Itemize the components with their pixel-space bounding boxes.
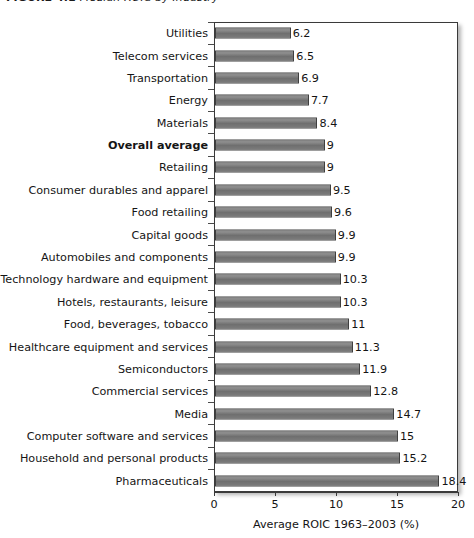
x-axis-tick-label: 5 <box>271 498 278 511</box>
y-axis-tick <box>208 223 214 224</box>
category-label: Consumer durables and apparel <box>28 183 208 196</box>
bar-row: Telecom services6.5 <box>0 44 474 66</box>
bar-value-label: 18.4 <box>441 474 466 487</box>
bar <box>215 117 317 128</box>
category-label: Media <box>174 407 208 420</box>
category-label: Computer software and services <box>27 430 208 443</box>
y-axis-tick <box>208 268 214 269</box>
category-label: Food retailing <box>132 206 208 219</box>
bar-value-label: 15 <box>400 430 414 443</box>
category-label: Capital goods <box>131 228 208 241</box>
bar-row: Food, beverages, tobacco11 <box>0 313 474 335</box>
x-axis-tick <box>275 492 276 496</box>
bar <box>215 72 299 83</box>
category-label: Healthcare equipment and services <box>9 340 208 353</box>
x-axis-tick <box>336 492 337 496</box>
bar-value-label: 9 <box>327 161 334 174</box>
bar-row: Food retailing9.6 <box>0 201 474 223</box>
category-label: Food, beverages, tobacco <box>64 318 208 331</box>
y-axis-tick <box>208 402 214 403</box>
x-axis-tick-label: 10 <box>329 498 343 511</box>
bar <box>215 453 400 464</box>
category-label: Retailing <box>159 161 208 174</box>
bar <box>215 95 309 106</box>
y-axis-tick <box>208 178 214 179</box>
category-label: Energy <box>169 94 208 107</box>
category-label: Utilities <box>166 27 208 40</box>
y-axis-tick <box>208 133 214 134</box>
y-axis-tick <box>208 44 214 45</box>
bar <box>215 363 360 374</box>
bar <box>215 50 294 61</box>
bar <box>215 28 291 39</box>
bar <box>215 341 353 352</box>
category-label: Hotels, restaurants, leisure <box>57 295 208 308</box>
bar-value-label: 9.9 <box>338 250 356 263</box>
roic-by-industry-bar-chart: Utilities6.2Telecom services6.5Transport… <box>0 0 474 538</box>
y-axis-tick <box>208 424 214 425</box>
x-axis-title: Average ROIC 1963–2003 (%) <box>214 518 458 531</box>
bar <box>215 319 349 330</box>
bar-value-label: 6.9 <box>301 71 319 84</box>
category-label: Automobiles and components <box>41 250 208 263</box>
bar-value-label: 8.4 <box>319 116 337 129</box>
bar <box>215 140 325 151</box>
category-label: Transportation <box>127 71 208 84</box>
bar-value-label: 9 <box>327 139 334 152</box>
x-axis-tick <box>397 492 398 496</box>
category-label: Household and personal products <box>20 452 208 465</box>
bar-value-label: 11 <box>351 318 365 331</box>
bar-value-label: 7.7 <box>311 94 329 107</box>
y-axis-tick <box>208 111 214 112</box>
bar-row: Overall average9 <box>0 134 474 156</box>
bar-value-label: 11.9 <box>362 362 387 375</box>
bar-row: Materials8.4 <box>0 112 474 134</box>
bar-value-label: 10.3 <box>343 295 368 308</box>
bar-row: Consumer durables and apparel9.5 <box>0 179 474 201</box>
bar-row: Media14.7 <box>0 402 474 424</box>
x-axis-tick <box>214 492 215 496</box>
x-axis-tick <box>458 492 459 496</box>
bar-row: Pharmaceuticals18.4 <box>0 470 474 492</box>
bar-row: Transportation6.9 <box>0 67 474 89</box>
bar <box>215 229 336 240</box>
category-label: Telecom services <box>113 49 208 62</box>
bar-row: Automobiles and components9.9 <box>0 246 474 268</box>
bar-row: Retailing9 <box>0 156 474 178</box>
x-axis-tick-label: 20 <box>451 498 465 511</box>
bar-row: Technology hardware and equipment10.3 <box>0 268 474 290</box>
bar <box>215 274 341 285</box>
bar-value-label: 6.2 <box>293 27 311 40</box>
bar-value-label: 11.3 <box>355 340 380 353</box>
y-axis-tick <box>208 335 214 336</box>
x-axis-tick-label: 0 <box>210 498 217 511</box>
bar <box>215 251 336 262</box>
bar-value-label: 9.6 <box>334 206 352 219</box>
category-label: Materials <box>157 116 208 129</box>
bar-row: Household and personal products15.2 <box>0 447 474 469</box>
y-axis-tick <box>208 156 214 157</box>
bar-row: Semiconductors11.9 <box>0 358 474 380</box>
y-axis-tick <box>208 357 214 358</box>
y-axis-tick <box>208 245 214 246</box>
bar <box>215 184 331 195</box>
bar-row: Capital goods9.9 <box>0 223 474 245</box>
bar-row: Computer software and services15 <box>0 425 474 447</box>
y-axis-tick <box>208 22 214 23</box>
y-axis-tick <box>208 447 214 448</box>
bar-value-label: 10.3 <box>343 273 368 286</box>
bar <box>215 431 398 442</box>
bar-row: Energy7.7 <box>0 89 474 111</box>
y-axis-tick <box>208 290 214 291</box>
y-axis-tick <box>208 66 214 67</box>
y-axis-tick <box>208 380 214 381</box>
category-label: Semiconductors <box>118 362 208 375</box>
bar-value-label: 15.2 <box>402 452 427 465</box>
bar-value-label: 14.7 <box>396 407 421 420</box>
bar-row: Healthcare equipment and services11.3 <box>0 335 474 357</box>
bar <box>215 408 394 419</box>
category-label: Pharmaceuticals <box>116 474 208 487</box>
category-label: Commercial services <box>92 385 208 398</box>
bar <box>215 207 332 218</box>
y-axis-tick <box>208 201 214 202</box>
